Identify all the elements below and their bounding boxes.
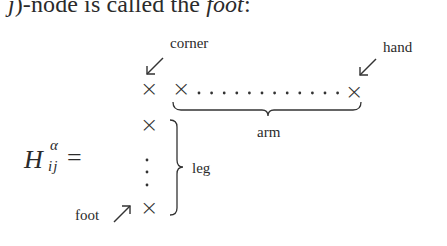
leg-brace <box>170 120 183 215</box>
diagram-graphics <box>0 0 447 246</box>
arrow-hand-icon <box>360 59 376 75</box>
leg-dots <box>146 159 149 187</box>
arrow-foot-icon <box>114 206 130 222</box>
arm-dots <box>198 92 339 95</box>
arm-brace <box>173 102 361 116</box>
arrow-corner-icon <box>147 58 163 74</box>
